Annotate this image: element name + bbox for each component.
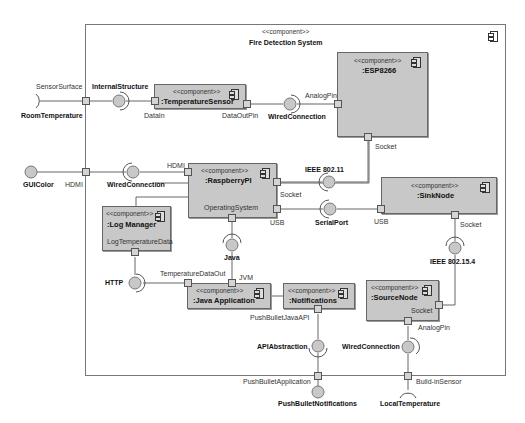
port-analog-pin-source[interactable] (404, 317, 412, 325)
label-wired-connection-bottom: WiredConnection (342, 343, 400, 350)
label-local-temperature: LocalTemperature (380, 400, 440, 407)
label-wired-connection-hdmi: WiredConnection (107, 181, 165, 188)
label-ieee-802154: IEEE 802.15.4 (430, 258, 475, 265)
component-name: :ESP8266 (362, 66, 396, 75)
label-hdmi-boundary: HDMI (65, 181, 83, 188)
port-usb-sink[interactable] (377, 205, 385, 213)
label-serial-port: SerialPort (315, 219, 348, 226)
port-log-temperature-data[interactable] (131, 248, 139, 256)
label-data-in: DataIn (144, 112, 165, 119)
component-name: :SinkNode (417, 191, 454, 200)
component-stereotype: <<component>> (201, 167, 248, 174)
component-icon (490, 31, 498, 42)
label-data-out-pin: DataOutPin (222, 112, 258, 119)
component-icon (157, 211, 165, 222)
component-esp8266[interactable]: <<component>> :ESP8266 (337, 52, 428, 137)
label-wired-connection-top: WiredConnection (268, 113, 326, 120)
component-stereotype: <<component>> (354, 57, 401, 64)
label-jvm: JVM (239, 274, 253, 281)
component-icon (482, 182, 490, 193)
label-sensor-surface: SensorSurface (36, 83, 82, 90)
label-internal-structure: InternalStructure (92, 83, 148, 90)
component-name: :SourceNode (371, 293, 418, 302)
component-icon (413, 57, 421, 68)
component-icon (231, 89, 239, 100)
port-temperature-data-out[interactable] (184, 279, 192, 287)
component-name: :RaspberryPI (205, 176, 252, 185)
port-build-in-sensor[interactable] (404, 372, 412, 380)
port-data-out-pin[interactable] (243, 100, 251, 108)
source-socket-label: Socket (411, 307, 432, 314)
label-temperature-data-out: TemperatureDataOut (160, 270, 225, 277)
label-build-in-sensor: Build-inSensor (416, 378, 462, 385)
label-java: Java (224, 254, 240, 261)
port-socket-esp[interactable] (364, 133, 372, 141)
port-usb-rpi[interactable] (273, 205, 281, 213)
component-sink-node[interactable]: <<component>> :SinkNode (381, 177, 497, 214)
component-name: :Log Manager (107, 220, 156, 229)
system-stereotype: <<component>> (262, 29, 309, 36)
port-push-bullet-java-api[interactable] (314, 305, 322, 313)
component-temperature-sensor[interactable]: <<component>> :TemperatureSensor (154, 84, 246, 109)
port-boundary-hdmi[interactable] (82, 168, 90, 176)
component-stereotype: <<component>> (411, 182, 458, 189)
operating-system-label: OperatingSystem (204, 204, 258, 211)
port-socket-rpi[interactable] (273, 178, 281, 186)
log-temperature-data-label: LogTemperatureData (107, 238, 173, 245)
component-log-manager[interactable]: <<component>> :Log Manager LogTemperatur… (102, 206, 171, 251)
component-stereotype: <<component>> (196, 287, 243, 294)
component-stereotype: <<component>> (371, 284, 418, 291)
label-socket-esp: Socket (375, 143, 396, 150)
label-analog-pin-esp: AnalogPin (305, 92, 337, 99)
label-push-bullet-java-api: PushBulletJavaAPI (250, 314, 310, 321)
component-icon (262, 168, 270, 179)
component-icon (424, 285, 432, 296)
port-hdmi-rpi[interactable] (184, 168, 192, 176)
port-data-in[interactable] (151, 97, 159, 105)
label-push-bullet-notifications: PushBulletNotifications (278, 400, 357, 407)
component-stereotype: <<component>> (288, 287, 335, 294)
component-stereotype: <<component>> (106, 210, 153, 217)
component-name: :Notifications (289, 296, 337, 305)
port-operating-system[interactable] (228, 214, 236, 222)
label-http: HTTP (105, 279, 123, 286)
port-analog-pin-esp[interactable] (334, 100, 342, 108)
component-source-node[interactable]: <<component>> :SourceNode Socket (366, 280, 439, 321)
component-icon (256, 288, 264, 299)
label-api-abstraction: APIAbstraction (257, 343, 308, 350)
port-boundary-sensor-surface[interactable] (82, 97, 90, 105)
component-name: :Java Application (193, 296, 255, 305)
label-ieee-80211: IEEE 802.11 (305, 166, 344, 173)
component-raspberry-pi[interactable]: <<component>> :RaspberryPI OperatingSyst… (188, 163, 277, 218)
port-socket-sink[interactable] (451, 211, 459, 219)
label-room-temperature: RoomTemperature (21, 112, 83, 119)
system-title: Fire Detection System (249, 39, 323, 46)
label-socket-rpi: Socket (280, 191, 301, 198)
label-usb-sink: USB (374, 218, 388, 225)
label-analog-pin-source: AnalogPin (418, 324, 450, 331)
component-name: :TemperatureSensor (161, 97, 234, 106)
label-hdmi-rpi: HDMI (167, 162, 185, 169)
port-socket-source[interactable] (435, 301, 443, 309)
port-jvm[interactable] (228, 279, 236, 287)
component-stereotype: <<component>> (173, 88, 220, 95)
port-push-bullet-application[interactable] (314, 372, 322, 380)
label-gui-color: GUIColor (23, 181, 54, 188)
component-icon (340, 288, 348, 299)
label-push-bullet-application: PushBulletApplication (243, 378, 311, 385)
label-usb-rpi: USB (270, 219, 284, 226)
label-socket-sink: Socket (460, 221, 481, 228)
